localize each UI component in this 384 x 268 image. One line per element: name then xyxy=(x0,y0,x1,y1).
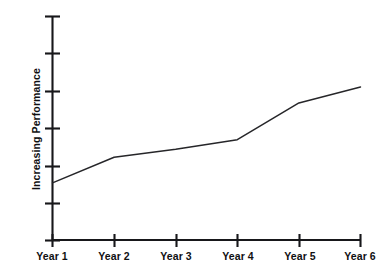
performance-line-series xyxy=(53,87,361,183)
x-axis-label-year-6: Year 6 xyxy=(344,250,376,262)
plot-area xyxy=(0,0,384,268)
x-axis-label-year-5: Year 5 xyxy=(284,250,316,262)
chart-figure: Increasing Performance Year 1 Year 2 Yea… xyxy=(0,0,384,268)
y-axis-title: Increasing Performance xyxy=(30,68,42,190)
x-axis-label-year-4: Year 4 xyxy=(222,250,254,262)
x-axis-label-year-3: Year 3 xyxy=(160,250,192,262)
x-axis-label-year-2: Year 2 xyxy=(98,250,130,262)
x-axis-label-year-1: Year 1 xyxy=(36,250,68,262)
